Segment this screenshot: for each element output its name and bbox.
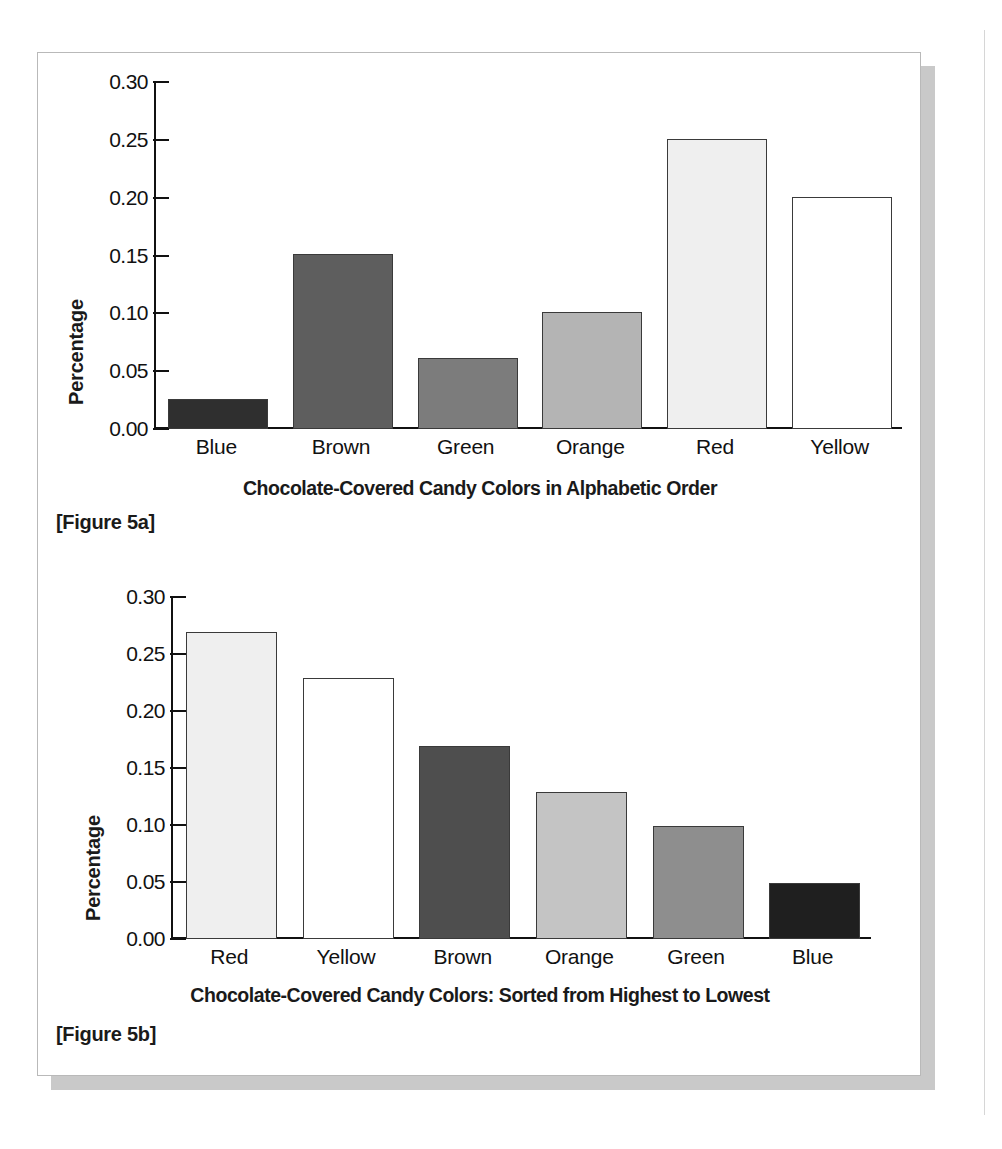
y-axis-tick-label: 0.15: [126, 757, 165, 778]
y-axis-tick-mark: [153, 312, 169, 314]
bar-brown: [419, 746, 510, 939]
page-edge-rule: [984, 30, 985, 1115]
bar-brown: [293, 254, 393, 429]
y-axis-tick-label: 0.30: [109, 71, 148, 92]
x-axis-tick-label-orange: Orange: [528, 436, 653, 458]
y-axis-tick-label: 0.10: [126, 814, 165, 835]
figure-tag-a: [Figure 5a]: [56, 511, 155, 534]
x-axis-tick-label-brown: Brown: [279, 436, 404, 458]
y-axis-tick-mark: [170, 881, 186, 883]
chart-caption-b: Chocolate-Covered Candy Colors: Sorted f…: [38, 984, 922, 1007]
bar-blue: [769, 883, 860, 939]
chart-caption-a: Chocolate-Covered Candy Colors in Alphab…: [38, 477, 922, 500]
bar-orange: [542, 312, 642, 429]
y-axis-tick-mark: [153, 197, 169, 199]
x-axis-tick-label-red: Red: [171, 946, 288, 968]
bar-blue: [168, 399, 268, 429]
document-page: Percentage 0.300.250.200.150.100.050.00 …: [37, 52, 921, 1076]
y-axis-tick-mark: [153, 370, 169, 372]
y-axis-tick-label: 0.20: [126, 700, 165, 721]
figure-tag-b: [Figure 5b]: [56, 1023, 156, 1046]
y-axis-tick-label: 0.00: [109, 418, 148, 439]
y-axis-tick-label: 0.15: [109, 245, 148, 266]
bar-red: [186, 632, 277, 939]
bar-green: [418, 358, 518, 429]
bars-group-b: [173, 597, 871, 939]
bar-yellow: [303, 678, 394, 939]
y-axis-tick-label: 0.30: [126, 586, 165, 607]
x-axis-tick-label-yellow: Yellow: [777, 436, 902, 458]
y-axis-tick-labels-b: 0.300.250.200.150.100.050.00: [93, 597, 165, 939]
x-axis-tick-label-red: Red: [653, 436, 778, 458]
bar-green: [653, 826, 744, 939]
bar-yellow: [792, 197, 892, 429]
x-axis-tick-label-orange: Orange: [521, 946, 638, 968]
y-axis-tick-label: 0.25: [109, 129, 148, 150]
y-axis-tick-label: 0.10: [109, 302, 148, 323]
y-axis-tick-labels-a: 0.300.250.200.150.100.050.00: [76, 82, 148, 429]
plot-area-a: [154, 82, 902, 429]
y-axis-tick-mark: [153, 428, 169, 430]
x-axis-tick-label-green: Green: [403, 436, 528, 458]
y-axis-tick-mark: [170, 596, 186, 598]
y-axis-tick-label: 0.25: [126, 643, 165, 664]
bar-red: [667, 139, 767, 429]
y-axis-tick-mark: [170, 653, 186, 655]
y-axis-tick-mark: [153, 139, 169, 141]
y-axis-tick-label: 0.00: [126, 928, 165, 949]
y-axis-tick-label: 0.20: [109, 187, 148, 208]
x-axis-tick-label-green: Green: [638, 946, 755, 968]
x-axis-tick-label-blue: Blue: [754, 946, 871, 968]
x-axis-tick-label-blue: Blue: [154, 436, 279, 458]
y-axis-tick-label: 0.05: [109, 360, 148, 381]
y-axis-tick-mark: [170, 767, 186, 769]
y-axis-tick-label: 0.05: [126, 871, 165, 892]
x-axis-tick-label-brown: Brown: [404, 946, 521, 968]
plot-area-b: [171, 597, 871, 939]
bars-group-a: [156, 82, 902, 429]
bar-orange: [536, 792, 627, 939]
y-axis-tick-mark: [170, 710, 186, 712]
x-axis-tick-label-yellow: Yellow: [288, 946, 405, 968]
y-axis-tick-mark: [170, 824, 186, 826]
y-axis-tick-mark: [153, 81, 169, 83]
y-axis-tick-mark: [170, 938, 186, 940]
y-axis-tick-mark: [153, 255, 169, 257]
